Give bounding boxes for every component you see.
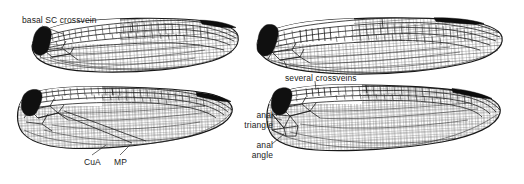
- label-anal-triangle: anal triangle: [229, 110, 273, 130]
- label-anal-triangle-line1: anal: [229, 110, 273, 120]
- label-anal-angle: anal angle: [229, 140, 273, 160]
- label-cua: CuA: [84, 157, 101, 167]
- label-anal-angle-line2: angle: [229, 150, 273, 160]
- wing-venation-figure: basal SC crossvein several crossveins an…: [0, 0, 524, 184]
- label-basal-sc-crossvein: basal SC crossvein: [22, 15, 97, 25]
- label-several-crossveins: several crossveins: [285, 73, 357, 83]
- label-mp: MP: [114, 157, 127, 167]
- label-anal-triangle-line2: triangle: [229, 120, 273, 130]
- wing-panel-bottom-left: [18, 84, 241, 154]
- wing-panel-top-right: [254, 12, 510, 78]
- label-anal-angle-line1: anal: [229, 140, 273, 150]
- wing-panel-bottom-right: [266, 82, 510, 154]
